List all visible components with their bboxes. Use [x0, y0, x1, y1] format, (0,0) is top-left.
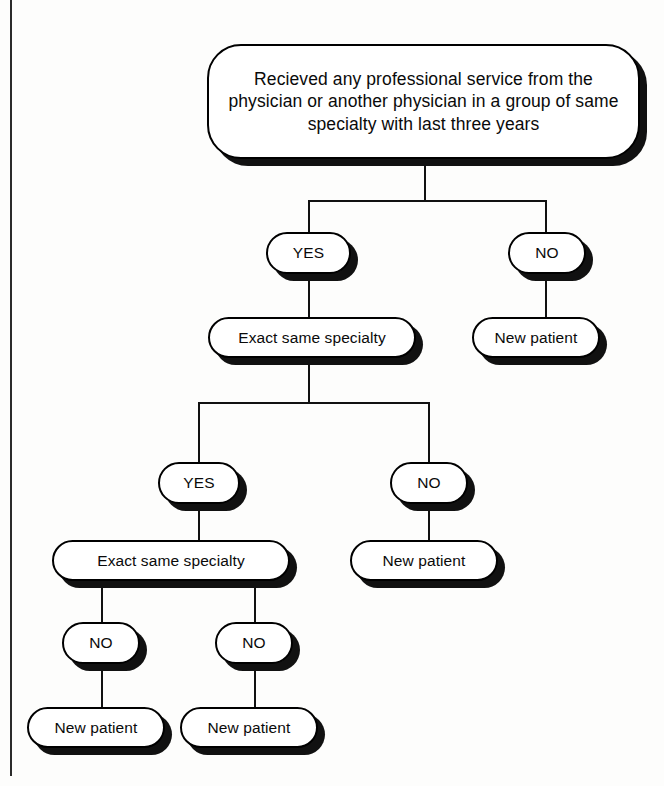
node-level2-new-patient[interactable]: New patient: [472, 317, 600, 358]
connector-specialty2-to-no-right: [254, 580, 256, 624]
node-level2-yes-label: YES: [173, 473, 224, 493]
node-level2-yes[interactable]: YES: [158, 462, 240, 504]
node-level3-no-right-label: NO: [232, 633, 275, 653]
connector-no-to-newpatient: [545, 272, 547, 318]
node-level3-new-patient[interactable]: New patient: [350, 540, 498, 581]
connector-specialty2-to-no-left: [101, 580, 103, 624]
connector-yes2-to-specialty2: [198, 502, 200, 542]
node-level1-no[interactable]: NO: [508, 232, 586, 274]
node-level1-no-label: NO: [525, 243, 568, 263]
node-level3-exact-same-specialty-label: Exact same specialty: [87, 551, 255, 571]
connector-root-to-no: [545, 200, 547, 234]
node-level3-no-left[interactable]: NO: [62, 622, 140, 664]
connector-specialty-stem: [308, 358, 310, 403]
connector-no-right-to-terminal: [254, 664, 256, 708]
flowchart-canvas: Recieved any professional service from t…: [0, 0, 664, 786]
node-level1-yes[interactable]: YES: [266, 232, 351, 274]
node-level3-new-patient-label: New patient: [373, 551, 476, 571]
node-level4-new-patient-left-label: New patient: [45, 718, 148, 738]
connector-no-left-to-terminal: [101, 664, 103, 708]
node-level3-no-right[interactable]: NO: [215, 622, 293, 664]
connector-yes-to-specialty: [308, 272, 310, 318]
node-root-question[interactable]: Recieved any professional service from t…: [207, 44, 640, 159]
node-level3-exact-same-specialty[interactable]: Exact same specialty: [52, 540, 290, 581]
node-level2-exact-same-specialty-label: Exact same specialty: [228, 328, 396, 348]
node-level4-new-patient-right[interactable]: New patient: [180, 707, 318, 748]
node-level4-new-patient-right-label: New patient: [198, 718, 301, 738]
connector-no2-to-newpatient: [428, 502, 430, 542]
node-level2-no-label: NO: [407, 473, 450, 493]
node-root-question-label: Recieved any professional service from t…: [209, 68, 638, 135]
node-level2-new-patient-label: New patient: [485, 328, 588, 348]
node-level1-yes-label: YES: [283, 243, 334, 263]
node-level2-exact-same-specialty[interactable]: Exact same specialty: [208, 317, 416, 358]
node-level3-no-left-label: NO: [79, 633, 122, 653]
connector-root-to-yes: [308, 200, 310, 234]
connector-specialty-to-yes: [198, 402, 200, 464]
page-edge-rule: [10, 0, 12, 776]
connector-specialty-bar: [198, 402, 430, 404]
node-level2-no[interactable]: NO: [390, 462, 468, 504]
connector-root-bar: [308, 200, 547, 202]
connector-root-stem: [424, 158, 426, 202]
node-level4-new-patient-left[interactable]: New patient: [27, 707, 165, 748]
connector-specialty-to-no: [428, 402, 430, 464]
